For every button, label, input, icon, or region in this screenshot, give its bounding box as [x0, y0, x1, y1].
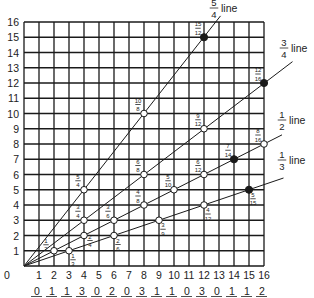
fraction-denominator: 14 [225, 152, 232, 158]
x-tick-label: 7 [126, 269, 132, 281]
fraction-denominator: 8 [136, 198, 140, 204]
point-fraction-label: 12 [43, 238, 48, 253]
y-tick-label: 5 [13, 184, 19, 196]
fraction-denominator: 4 [281, 49, 286, 60]
fraction-denominator: 12 [195, 167, 202, 173]
point-fraction-label: 108 [135, 98, 142, 113]
equivalent-fractions-chart: 123456789101112131415160 123456789101112… [0, 0, 314, 298]
fraction-denominator: 4 [76, 182, 80, 188]
open-point-marker [261, 141, 268, 148]
point-fraction-label: 515 [250, 192, 257, 207]
point-fraction-label: 1512 [195, 21, 202, 36]
answer-digit-text: 2 [259, 285, 265, 297]
answer-digit-text: 0 [34, 285, 40, 297]
y-tick-label: 9 [13, 123, 19, 135]
answer-digit: 0 [121, 285, 132, 297]
fraction-numerator: 1 [44, 238, 48, 244]
filled-point-marker [200, 34, 207, 41]
y-tick-label: 6 [13, 169, 19, 181]
fraction-denominator: 8 [136, 167, 140, 173]
answer-digit-text: 1 [154, 285, 160, 297]
fraction-denominator: 12 [195, 30, 202, 36]
y-tick-label: 16 [7, 16, 19, 28]
fraction-numerator: 1 [279, 149, 284, 160]
fraction-numerator: 3 [281, 37, 286, 48]
ratio-lines [24, 16, 293, 266]
point-fraction-label: 26 [115, 238, 120, 253]
fraction-denominator: 4 [76, 213, 80, 219]
answer-digit-text: 0 [184, 285, 190, 297]
point-fraction-label: 54 [75, 174, 80, 189]
answer-digit-text: 1 [169, 285, 175, 297]
point-fraction-label: 412 [205, 207, 212, 222]
answer-digit-text: 1 [244, 285, 250, 297]
x-tick-label: 10 [168, 269, 180, 281]
point-fraction-label: 912 [195, 113, 202, 128]
open-point-marker [141, 110, 148, 117]
answer-digit-text: 1 [64, 285, 70, 297]
chart-svg: 123456789101112131415160 123456789101112… [0, 0, 314, 298]
y-tick-label: 3 [13, 214, 19, 226]
point-fraction-label: 510 [165, 174, 172, 189]
point-fraction-label: 612 [195, 159, 202, 174]
series-label-word: line [289, 114, 306, 126]
answer-digit: 1 [46, 285, 57, 297]
answer-digit: 0 [31, 285, 42, 297]
series-label: 13line [278, 149, 306, 172]
answer-digit: 0 [211, 285, 222, 297]
answer-digit-text: 0 [214, 285, 220, 297]
point-fraction-label: 816 [255, 128, 262, 143]
point-fraction-label: 48 [135, 189, 140, 204]
point-fraction-label: 39 [160, 222, 165, 237]
open-point-marker [171, 186, 178, 193]
x-tick-label: 9 [156, 269, 162, 281]
fraction-denominator: 12 [205, 216, 212, 222]
x-tick-label: 16 [258, 269, 270, 281]
fraction-numerator: 1 [71, 253, 75, 259]
answer-digit: 0 [181, 285, 192, 297]
fraction-denominator: 16 [255, 137, 262, 143]
answer-row: 0113020311030112 [31, 285, 267, 297]
y-tick-label: 11 [8, 92, 19, 104]
fraction-denominator: 2 [279, 121, 284, 132]
fraction-denominator: 8 [136, 106, 140, 112]
fraction-denominator: 12 [195, 121, 202, 127]
open-point-marker [81, 232, 88, 239]
data-point: 1512 [195, 21, 208, 41]
ratio-line [24, 178, 284, 266]
answer-digit: 1 [166, 285, 177, 297]
answer-digit: 3 [136, 285, 147, 297]
fraction-numerator: 10 [135, 98, 142, 104]
series-label: 12line [278, 109, 306, 132]
y-tick-label: 10 [7, 108, 19, 120]
answer-digit: 3 [196, 285, 207, 297]
answer-digit: 1 [241, 285, 252, 297]
fraction-numerator: 4 [206, 207, 210, 213]
answer-digit: 1 [226, 285, 237, 297]
x-axis-tick-labels: 12345678910111213141516 [36, 269, 270, 281]
origin-label: 0 [4, 269, 10, 281]
series-label-word: line [289, 154, 306, 166]
answer-digit-text: 2 [109, 285, 115, 297]
answer-digit-text: 1 [49, 285, 55, 297]
x-tick-label: 5 [96, 269, 102, 281]
x-tick-label: 8 [141, 269, 147, 281]
point-fraction-label: 714 [225, 143, 232, 158]
point-fraction-label: 34 [75, 204, 80, 219]
answer-digit: 2 [106, 285, 117, 297]
open-point-marker [51, 247, 58, 254]
fraction-numerator: 2 [116, 238, 120, 244]
y-tick-label: 13 [7, 62, 19, 74]
series-label-fraction: 12 [278, 109, 287, 132]
fraction-numerator: 5 [211, 0, 216, 8]
answer-digit-text: 0 [94, 285, 100, 297]
fraction-denominator: 3 [279, 161, 284, 172]
answer-digit: 3 [76, 285, 87, 297]
point-fraction-label: 1216 [255, 67, 262, 82]
y-tick-label: 7 [13, 153, 19, 165]
y-tick-label: 8 [13, 138, 19, 150]
x-tick-label: 11 [184, 269, 195, 281]
open-point-marker [81, 186, 88, 193]
open-point-marker [201, 125, 208, 132]
series-label: 54line [210, 0, 238, 20]
